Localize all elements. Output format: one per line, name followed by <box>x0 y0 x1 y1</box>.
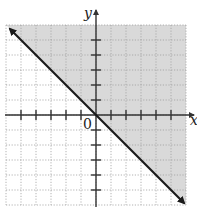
y-axis-label: y <box>84 6 92 20</box>
coordinate-plane <box>0 0 197 208</box>
origin-label: 0 <box>83 117 92 131</box>
x-axis-label: x <box>190 113 197 127</box>
